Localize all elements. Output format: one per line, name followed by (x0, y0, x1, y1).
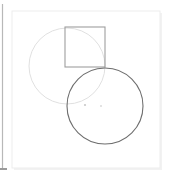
figure-canvas (0, 0, 170, 180)
center-marker-right (100, 105, 102, 107)
geometry-figure (0, 0, 170, 180)
figure-card (12, 11, 160, 168)
center-marker-left (84, 104, 86, 106)
